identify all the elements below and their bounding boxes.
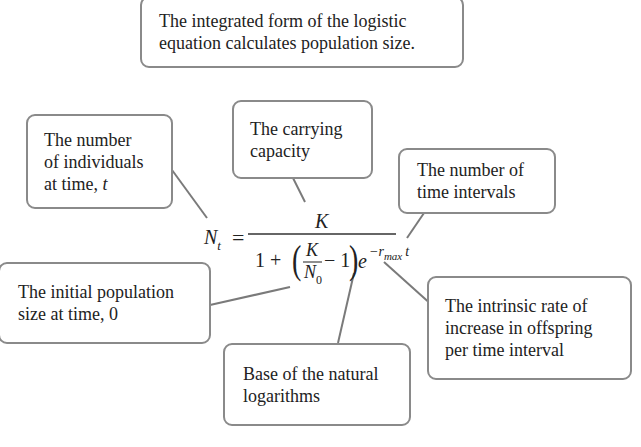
- eq-close-paren: ): [349, 236, 358, 283]
- callout-natural-log-base: Base of the natural logarithms: [223, 343, 411, 426]
- callout-nt-line-3: at time, t: [44, 173, 157, 195]
- callout-carrying-capacity: The carrying capacity: [232, 100, 373, 179]
- callout-individuals-at-time: The number of individuals at time, t: [26, 114, 173, 209]
- eq-exp-t: t: [405, 244, 409, 259]
- eq-exponent: −rmaxt: [369, 244, 409, 262]
- callout-t-line-2: time intervals: [417, 181, 540, 203]
- eq-lhs: Nt: [204, 226, 221, 253]
- callout-r-line-2: increase in offspring: [445, 317, 616, 339]
- callout-e-line-2: logarithms: [243, 385, 395, 407]
- callout-nt-line-2: of individuals: [44, 151, 157, 173]
- callout-nt-line-1: The number: [44, 129, 157, 151]
- callout-r-line-3: per time interval: [445, 339, 616, 361]
- leader-line-nt: [172, 170, 207, 218]
- title-box: The integrated form of the logistic equa…: [140, 0, 464, 68]
- eq-base-e: e: [358, 250, 367, 273]
- eq-equals: =: [232, 225, 244, 251]
- eq-minus-one: − 1: [324, 249, 350, 272]
- callout-nt-line-3-text: at time,: [44, 174, 102, 194]
- leader-line-n0: [210, 287, 290, 305]
- callout-nt-italic-t: t: [102, 174, 107, 194]
- callout-n0-line-2: size at time, 0: [18, 303, 195, 325]
- eq-inner-sub-0: 0: [316, 273, 322, 287]
- leader-line-t: [407, 213, 424, 238]
- leader-line-e: [338, 273, 354, 343]
- eq-inner-n: N: [304, 262, 316, 282]
- callout-t-line-1: The number of: [417, 159, 540, 181]
- callout-time-intervals: The number of time intervals: [398, 148, 556, 214]
- eq-inner-n0: N0: [304, 262, 322, 287]
- eq-exp-r: −r: [369, 244, 384, 259]
- title-line-2: equation calculates population size.: [159, 32, 448, 54]
- eq-n-sub-t: t: [217, 238, 221, 253]
- callout-initial-population: The initial population size at time, 0: [0, 262, 211, 344]
- leader-line-k: [293, 178, 305, 202]
- eq-one-plus: 1 +: [255, 249, 281, 272]
- callout-e-line-1: Base of the natural: [243, 363, 395, 385]
- eq-numerator-k: K: [315, 210, 328, 233]
- callout-r-line-1: The intrinsic rate of: [445, 295, 616, 317]
- eq-open-paren: (: [292, 236, 301, 283]
- eq-inner-k: K: [306, 240, 318, 261]
- eq-n: N: [204, 226, 217, 248]
- leader-line-r: [384, 262, 433, 306]
- title-line-1: The integrated form of the logistic: [159, 10, 448, 32]
- callout-n0-line-1: The initial population: [18, 281, 195, 303]
- eq-exp-max: max: [384, 250, 402, 262]
- callout-k-line-2: capacity: [250, 140, 357, 162]
- callout-intrinsic-rate: The intrinsic rate of increase in offspr…: [427, 276, 632, 380]
- callout-k-line-1: The carrying: [250, 118, 357, 140]
